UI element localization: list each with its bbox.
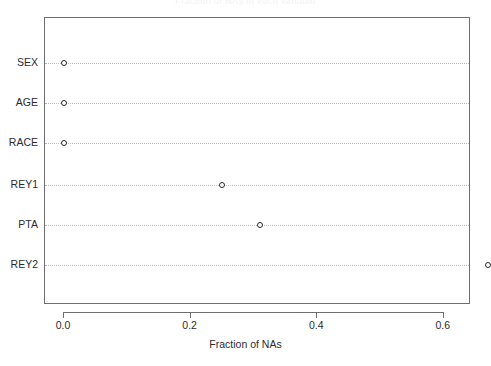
data-point-pta: [257, 222, 263, 228]
x-tick-0.2: [190, 312, 191, 318]
gridline-sex: [45, 63, 469, 64]
x-tick-0.6: [443, 312, 444, 318]
chart-title: Fraction of NAs in each variable: [0, 0, 491, 6]
x-tick-label-0.0: 0.0: [56, 319, 71, 331]
x-axis-title: Fraction of NAs: [0, 338, 491, 350]
data-point-race: [61, 140, 67, 146]
y-axis-label-rey2: REY2: [0, 258, 38, 270]
data-point-rey2: [485, 262, 491, 268]
data-point-rey1: [219, 182, 225, 188]
x-tick-label-0.6: 0.6: [435, 319, 450, 331]
x-tick-label-0.2: 0.2: [182, 319, 197, 331]
plot-area: [44, 17, 470, 304]
y-axis-label-pta: PTA: [0, 218, 38, 230]
x-tick-label-0.4: 0.4: [309, 319, 324, 331]
x-axis: 0.00.20.40.6: [44, 304, 470, 305]
data-point-sex: [61, 60, 67, 66]
gridline-race: [45, 143, 469, 144]
y-axis-label-race: RACE: [0, 136, 38, 148]
x-axis-line: [63, 312, 443, 313]
y-axis-label-age: AGE: [0, 96, 38, 108]
gridline-rey1: [45, 185, 469, 186]
gridline-rey2: [45, 265, 469, 266]
x-tick-0.4: [316, 312, 317, 318]
x-tick-0.0: [63, 312, 64, 318]
y-axis-label-rey1: REY1: [0, 178, 38, 190]
y-axis-label-sex: SEX: [0, 56, 38, 68]
data-point-age: [61, 100, 67, 106]
gridline-age: [45, 103, 469, 104]
chart-figure: Fraction of NAs in each variable SEXAGER…: [0, 0, 491, 366]
